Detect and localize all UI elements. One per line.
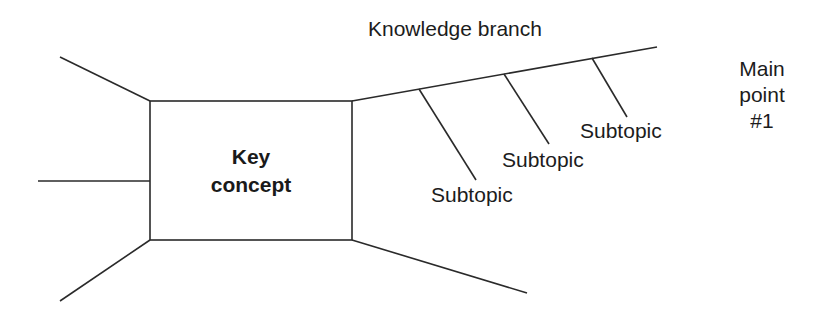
main-point-line3: #1 (722, 108, 802, 134)
subtopic-2-line (504, 74, 549, 144)
main-point-label: Main point #1 (722, 56, 802, 134)
subtopic-2-label: Subtopic (502, 148, 584, 172)
upper-left-branch-line (60, 57, 150, 101)
knowledge-branch-label: Knowledge branch (368, 17, 542, 41)
subtopic-3-line (592, 58, 627, 117)
subtopic-3-label: Subtopic (580, 119, 662, 143)
key-concept-line1: Key (232, 143, 271, 171)
knowledge-map-diagram (0, 0, 829, 315)
subtopic-1-line (419, 89, 476, 180)
lower-right-branch-line (352, 240, 527, 293)
lower-left-branch-line (60, 240, 150, 301)
key-concept-line2: concept (211, 171, 292, 199)
main-point-line1: Main (722, 56, 802, 82)
main-point-line2: point (722, 82, 802, 108)
subtopic-1-label: Subtopic (431, 183, 513, 207)
key-concept-label: Key concept (150, 101, 352, 240)
